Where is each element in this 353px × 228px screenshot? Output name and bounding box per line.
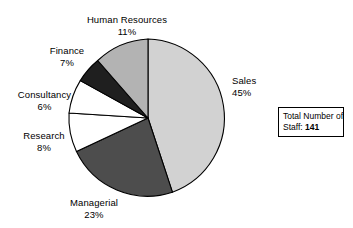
pie-label-finance-name: Finance — [33, 45, 101, 57]
pie-label-human-resources: Human Resources 11% — [74, 14, 180, 37]
total-staff-line2: Staff: 141 — [283, 122, 339, 133]
pie-label-human-resources-percent: 11% — [74, 26, 180, 38]
total-staff-annotation-box: Total Number of Staff: 141 — [278, 107, 344, 137]
pie-chart-screenshot: Human Resources 11% Finance 7% Consultan… — [0, 0, 353, 228]
staff-distribution-pie-chart: Human Resources 11% Finance 7% Consultan… — [0, 0, 353, 228]
pie-label-sales: Sales 45% — [232, 75, 284, 98]
pie-label-finance-percent: 7% — [33, 57, 101, 69]
pie-label-research-percent: 8% — [12, 142, 76, 154]
total-staff-label: Staff: — [283, 122, 303, 132]
total-staff-value: 141 — [305, 122, 319, 132]
pie-label-research-name: Research — [12, 130, 76, 142]
pie-label-managerial-name: Managerial — [55, 197, 133, 209]
total-staff-line1: Total Number of — [283, 111, 339, 122]
pie-label-managerial-percent: 23% — [55, 209, 133, 221]
pie-label-sales-name: Sales — [232, 75, 284, 87]
pie-label-research: Research 8% — [12, 130, 76, 153]
pie-label-sales-percent: 45% — [232, 87, 284, 99]
pie-label-consultancy: Consultancy 6% — [3, 89, 86, 112]
pie-label-consultancy-percent: 6% — [3, 101, 86, 113]
pie-label-human-resources-name: Human Resources — [74, 14, 180, 26]
pie-label-finance: Finance 7% — [33, 45, 101, 68]
pie-label-managerial: Managerial 23% — [55, 197, 133, 220]
pie-label-consultancy-name: Consultancy — [3, 89, 86, 101]
